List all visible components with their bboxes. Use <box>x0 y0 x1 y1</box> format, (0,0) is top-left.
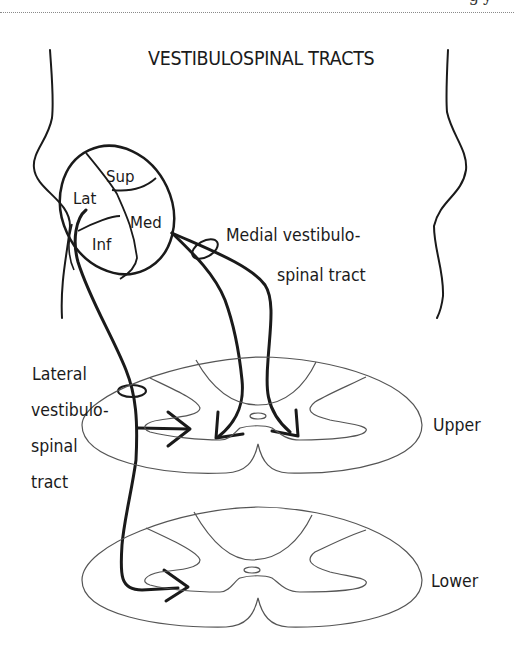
lateral-tract-label-line2: vestibulo- <box>31 402 109 420</box>
nucleus-label-inferior: Inf <box>92 238 111 253</box>
nucleus-label-superior: Sup <box>106 170 135 185</box>
figure-title: VESTIBULOSPINAL TRACTS <box>148 49 374 68</box>
upper-cord-section <box>82 357 422 473</box>
lateral-tract-label-line3: spinal <box>31 438 78 456</box>
lateral-tract-fiber-outer <box>69 224 74 270</box>
vestibular-nuclei <box>39 127 194 293</box>
medial-tract-fiber-left <box>172 233 242 437</box>
brainstem-left-contour <box>34 50 70 318</box>
nucleus-label-medial: Med <box>130 216 162 231</box>
nucleus-label-lateral: Lat <box>73 192 96 207</box>
medial-tract-fiber-right <box>172 233 290 432</box>
lateral-tract-lower-arrowhead <box>164 570 188 601</box>
brainstem-right-contour <box>434 50 466 318</box>
vestibulospinal-diagram <box>0 0 514 662</box>
lateral-tract-label-line1: Lateral <box>32 366 87 384</box>
cord-level-label-lower: Lower <box>431 573 478 591</box>
cord-level-label-upper: Upper <box>433 417 481 435</box>
lateral-tract-label-line4: tract <box>31 474 68 492</box>
medial-tract-label-line1: Medial vestibulo- <box>226 227 360 245</box>
lower-cord-section <box>82 507 422 627</box>
medial-tract-label-line2: spinal tract <box>277 267 366 285</box>
